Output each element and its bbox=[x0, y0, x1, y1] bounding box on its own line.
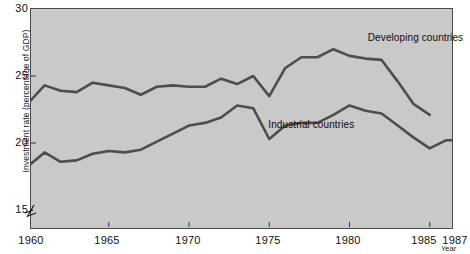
x-tick-1975: 1975 bbox=[255, 234, 280, 246]
chart-figure: Investment rate (percentage of GDP) 30 2… bbox=[0, 0, 470, 254]
x-tick-1970: 1970 bbox=[175, 234, 200, 246]
series-label-developing: Developing countries bbox=[368, 32, 463, 43]
x-tick-1965: 1965 bbox=[94, 234, 119, 246]
x-tick-1985: 1985 bbox=[411, 234, 436, 246]
x-axis-title: Year bbox=[441, 244, 456, 253]
x-tick-1980: 1980 bbox=[335, 234, 360, 246]
series-label-industrial: Industrial countries bbox=[268, 119, 354, 130]
x-tick-1960: 1960 bbox=[18, 234, 43, 246]
